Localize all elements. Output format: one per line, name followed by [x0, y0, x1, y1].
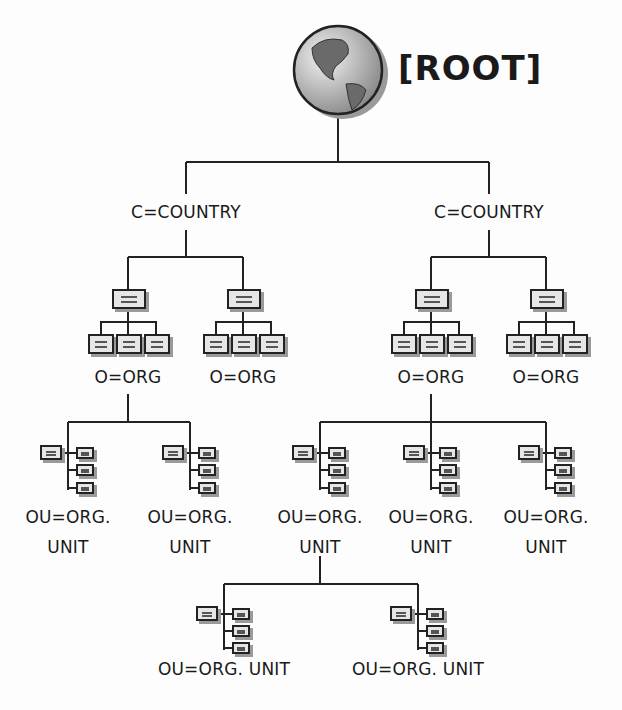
ou-label: OU=ORG.UNIT: [388, 502, 473, 562]
ou-child-icon: [328, 464, 346, 476]
ou-child-icon: [439, 447, 457, 459]
ou-child-icon: [198, 482, 216, 494]
directory-tree-diagram: [ROOT] C=COUNTRY C=COUNTRY O=ORG O=ORG O…: [0, 0, 622, 710]
ou-child-icon: [198, 447, 216, 459]
ou-child-icon: [76, 464, 94, 476]
org-child-icon: [534, 334, 560, 354]
ou-child-icon: [554, 464, 572, 476]
ou-label: OU=ORG.UNIT: [277, 502, 362, 562]
ou-icon: [390, 606, 412, 621]
org-child-icon: [144, 334, 170, 354]
org-child-icon: [88, 334, 114, 354]
org-child-icon: [203, 334, 229, 354]
org-child-icon: [506, 334, 532, 354]
org-label: O=ORG: [95, 362, 162, 392]
globe-icon: [290, 22, 390, 122]
ou-icon: [518, 445, 540, 460]
org-child-icon: [447, 334, 473, 354]
ou-icon: [40, 445, 62, 460]
ou-child-icon: [232, 642, 250, 654]
root-label: [ROOT]: [398, 48, 542, 88]
ou-child-icon: [426, 642, 444, 654]
ou-child-icon: [328, 447, 346, 459]
ou-child-icon: [232, 625, 250, 637]
sub-ou-label: OU=ORG. UNIT: [158, 654, 290, 684]
ou-child-icon: [426, 608, 444, 620]
sub-ou-label: OU=ORG. UNIT: [352, 654, 484, 684]
ou-icon: [403, 445, 425, 460]
org-label: O=ORG: [513, 362, 580, 392]
org-child-icon: [259, 334, 285, 354]
org-server-icon: [112, 289, 146, 309]
ou-child-icon: [554, 447, 572, 459]
ou-child-icon: [439, 464, 457, 476]
ou-child-icon: [426, 625, 444, 637]
ou-icon: [196, 606, 218, 621]
org-server-icon: [415, 289, 449, 309]
ou-child-icon: [76, 447, 94, 459]
ou-child-icon: [76, 482, 94, 494]
org-child-icon: [391, 334, 417, 354]
org-server-icon: [227, 289, 261, 309]
ou-child-icon: [554, 482, 572, 494]
org-label: O=ORG: [398, 362, 465, 392]
ou-label: OU=ORG.UNIT: [25, 502, 110, 562]
country-label: C=COUNTRY: [131, 197, 241, 227]
ou-child-icon: [198, 464, 216, 476]
org-child-icon: [419, 334, 445, 354]
ou-icon: [162, 445, 184, 460]
ou-child-icon: [232, 608, 250, 620]
org-server-icon: [530, 289, 564, 309]
ou-icon: [292, 445, 314, 460]
country-label: C=COUNTRY: [434, 197, 544, 227]
ou-child-icon: [328, 482, 346, 494]
org-child-icon: [116, 334, 142, 354]
org-child-icon: [562, 334, 588, 354]
ou-label: OU=ORG.UNIT: [147, 502, 232, 562]
ou-child-icon: [439, 482, 457, 494]
ou-label: OU=ORG.UNIT: [503, 502, 588, 562]
org-child-icon: [231, 334, 257, 354]
org-label: O=ORG: [210, 362, 277, 392]
